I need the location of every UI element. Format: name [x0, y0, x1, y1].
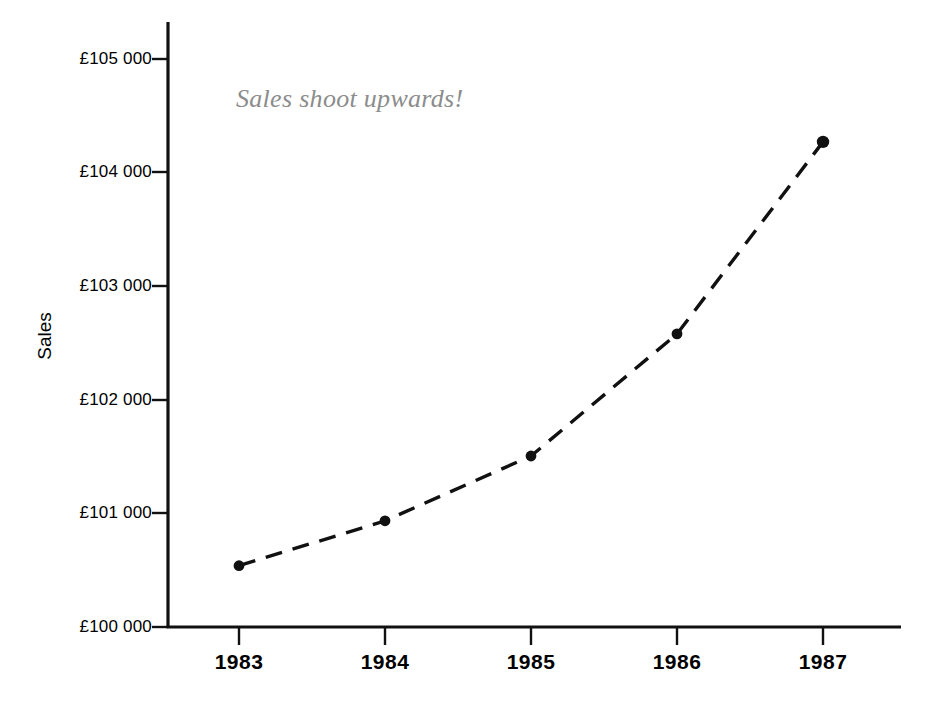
y-tick-label-101000: £101 000: [79, 503, 152, 523]
sales-series-markers: [234, 136, 830, 571]
x-axis-ticks: [239, 627, 823, 645]
chart-annotation: Sales shoot upwards!: [236, 84, 464, 114]
data-point-1985: [526, 451, 537, 462]
x-tick-label-1983: 1983: [215, 650, 264, 674]
chart-plot-area: [0, 0, 931, 706]
y-axis-title: Sales: [34, 296, 56, 376]
y-tick-label-104000: £104 000: [79, 162, 152, 182]
x-tick-label-1984: 1984: [361, 650, 410, 674]
data-point-1986: [672, 329, 683, 340]
y-axis-ticks: [152, 59, 168, 627]
y-tick-label-105000: £105 000: [79, 49, 152, 69]
sales-series-line: [239, 142, 823, 566]
sales-line-chart: £105 000 £104 000 £103 000 £102 000 £101…: [0, 0, 931, 706]
data-point-1984: [380, 515, 391, 526]
data-point-1987: [817, 136, 829, 148]
y-tick-label-103000: £103 000: [79, 276, 152, 296]
data-point-1983: [234, 560, 245, 571]
y-tick-label-100000: £100 000: [79, 617, 152, 637]
x-tick-label-1986: 1986: [653, 650, 702, 674]
x-tick-label-1987: 1987: [799, 650, 848, 674]
y-tick-label-102000: £102 000: [79, 390, 152, 410]
x-tick-label-1985: 1985: [507, 650, 556, 674]
